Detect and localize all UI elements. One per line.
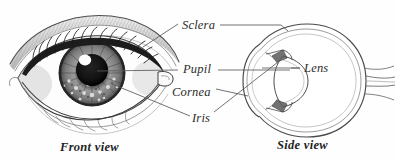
label-iris: Iris: [192, 111, 210, 126]
eye-anatomy-figure: Sclera Pupil Cornea Iris Lens Front view…: [0, 0, 395, 161]
front-view-drawing: [0, 0, 200, 134]
caption-side-view: Side view: [277, 138, 328, 153]
label-sclera: Sclera: [182, 18, 215, 33]
tear-duct: [158, 71, 173, 86]
label-pupil: Pupil: [183, 62, 211, 77]
caption-front-view: Front view: [60, 140, 119, 155]
label-cornea: Cornea: [172, 85, 211, 100]
specular-highlight: [79, 55, 91, 66]
label-lens: Lens: [304, 61, 328, 76]
side-view-drawing: [240, 20, 395, 140]
vitreous-body: [240, 20, 380, 140]
optic-nerve: [364, 66, 395, 100]
